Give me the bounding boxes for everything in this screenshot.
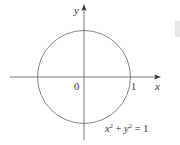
x-tick-label-1: 1 (131, 81, 136, 92)
eq-rhs: = 1 (132, 123, 148, 134)
y-axis-label: y (73, 4, 79, 16)
edge-mark (175, 21, 180, 37)
unit-circle-diagram: y x 0 1 x2 + y2 = 1 (0, 0, 180, 145)
origin-label: 0 (74, 81, 79, 92)
eq-plus: + (113, 123, 124, 134)
x-axis-label: x (154, 80, 160, 92)
circle-equation: x2 + y2 = 1 (104, 122, 148, 134)
